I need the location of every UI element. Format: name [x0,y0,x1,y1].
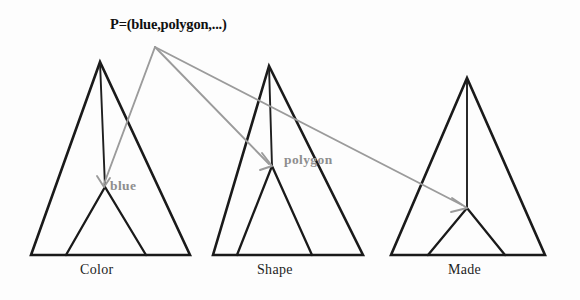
node-label-blue: blue [110,178,136,194]
shape-inner-triangle [237,166,312,255]
link-to-polygon [155,47,272,170]
hierarchy-label-color: Color [80,262,113,278]
tuple-label: P=(blue,polygon,...) [110,16,227,33]
color-inner-triangle [66,187,146,255]
made-outer-triangle [391,78,545,255]
hierarchy-diagram-svg [0,0,580,300]
hierarchy-made [391,78,545,255]
shape-spine-line [269,66,272,166]
arrowhead-blue-icon [97,176,110,187]
node-label-polygon: polygon [284,152,333,168]
color-spine-line [100,62,105,187]
diagram-canvas: P=(blue,polygon,...) blue polygon Color … [0,0,580,300]
hierarchy-color [31,62,190,255]
color-outer-triangle [31,62,190,255]
hierarchy-label-shape: Shape [257,262,293,278]
made-inner-triangle [428,208,505,255]
hierarchy-label-made: Made [448,262,481,278]
